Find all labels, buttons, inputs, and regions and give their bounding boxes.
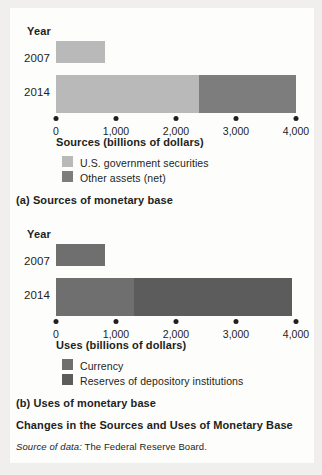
panel-b-tick-label-4: 4,000 [283, 329, 309, 340]
panel-b-legend-swatch-reserves [62, 374, 73, 385]
panel-b-tick-label-0: 0 [53, 329, 59, 340]
panel-b-tick-dot-1 [114, 319, 119, 324]
panel-b-tick-dot-0 [54, 319, 59, 324]
panel-a-segment-2014-s1 [199, 75, 296, 113]
panel-a-segment-2007-s0 [56, 41, 105, 63]
figure-title: Changes in the Sources and Uses of Monet… [16, 420, 293, 431]
panel-a-tick-label-1: 1,000 [103, 126, 129, 137]
figure-source-note-body: The Federal Reserve Board. [82, 441, 207, 452]
panel-a-legend-label-us-gov-securities: U.S. government securities [80, 158, 209, 169]
panel-a-x-axis [56, 118, 296, 119]
panel-b-tick-label-1: 1,000 [103, 329, 129, 340]
panel-b-bar-2007 [56, 244, 296, 266]
panel-a-caption: (a) Sources of monetary base [16, 195, 173, 206]
panel-b-legend-label-reserves: Reserves of depository institutions [80, 376, 243, 387]
panel-a-tick-label-2: 2,000 [163, 126, 189, 137]
panel-a-tick-label-4: 4,000 [283, 126, 309, 137]
panel-a-legend-label-other-assets-net: Other assets (net) [80, 173, 166, 184]
panel-a-bar-2007 [56, 41, 296, 63]
panel-a-segment-2014-s0 [56, 75, 199, 113]
panel-a-plot-area: 01,0002,0003,0004,000 [10, 8, 314, 148]
panel-b-segment-2014-s1 [134, 278, 292, 316]
panel-b-tick-label-3: 3,000 [223, 329, 249, 340]
panel-b-segment-2014-s0 [56, 278, 134, 316]
figure-source-note-prefix: Source of data: [16, 441, 82, 452]
panel-b-plot-area: 01,0002,0003,0004,000 [10, 211, 314, 351]
panel-a-tick-dot-3 [234, 116, 239, 121]
panel-b-bar-2014 [56, 278, 296, 316]
panel-b-tick-label-2: 2,000 [163, 329, 189, 340]
panel-a-tick-label-3: 3,000 [223, 126, 249, 137]
panel-a-bar-2014 [56, 75, 296, 113]
panel-b-legend-swatch-currency [62, 359, 73, 370]
panel-a-legend-swatch-other-assets-net [62, 171, 73, 182]
panel-b-tick-dot-2 [174, 319, 179, 324]
panel-a-tick-dot-2 [174, 116, 179, 121]
page-background: Year 2007 2014 01,0002,0003,0004,000 Sou… [0, 0, 322, 475]
panel-b-tick-dot-3 [234, 319, 239, 324]
panel-a-tick-dot-0 [54, 116, 59, 121]
panel-b-x-axis [56, 321, 296, 322]
figure-source-note: Source of data: The Federal Reserve Boar… [16, 442, 207, 452]
panel-a-tick-dot-4 [294, 116, 299, 121]
panel-b-legend-label-currency: Currency [80, 361, 123, 372]
figure-paper: Year 2007 2014 01,0002,0003,0004,000 Sou… [10, 8, 314, 463]
panel-b-segment-2007-s0 [56, 244, 105, 266]
panel-a-tick-label-0: 0 [53, 126, 59, 137]
figure-container: Year 2007 2014 01,0002,0003,0004,000 Sou… [10, 8, 314, 463]
panel-b-x-axis-title: Uses (billions of dollars) [56, 340, 186, 351]
panel-a-x-axis-title: Sources (billions of dollars) [56, 137, 204, 148]
panel-a-legend-swatch-us-gov-securities [62, 156, 73, 167]
panel-b-caption: (b) Uses of monetary base [16, 398, 156, 409]
panel-a-tick-dot-1 [114, 116, 119, 121]
panel-b-tick-dot-4 [294, 319, 299, 324]
